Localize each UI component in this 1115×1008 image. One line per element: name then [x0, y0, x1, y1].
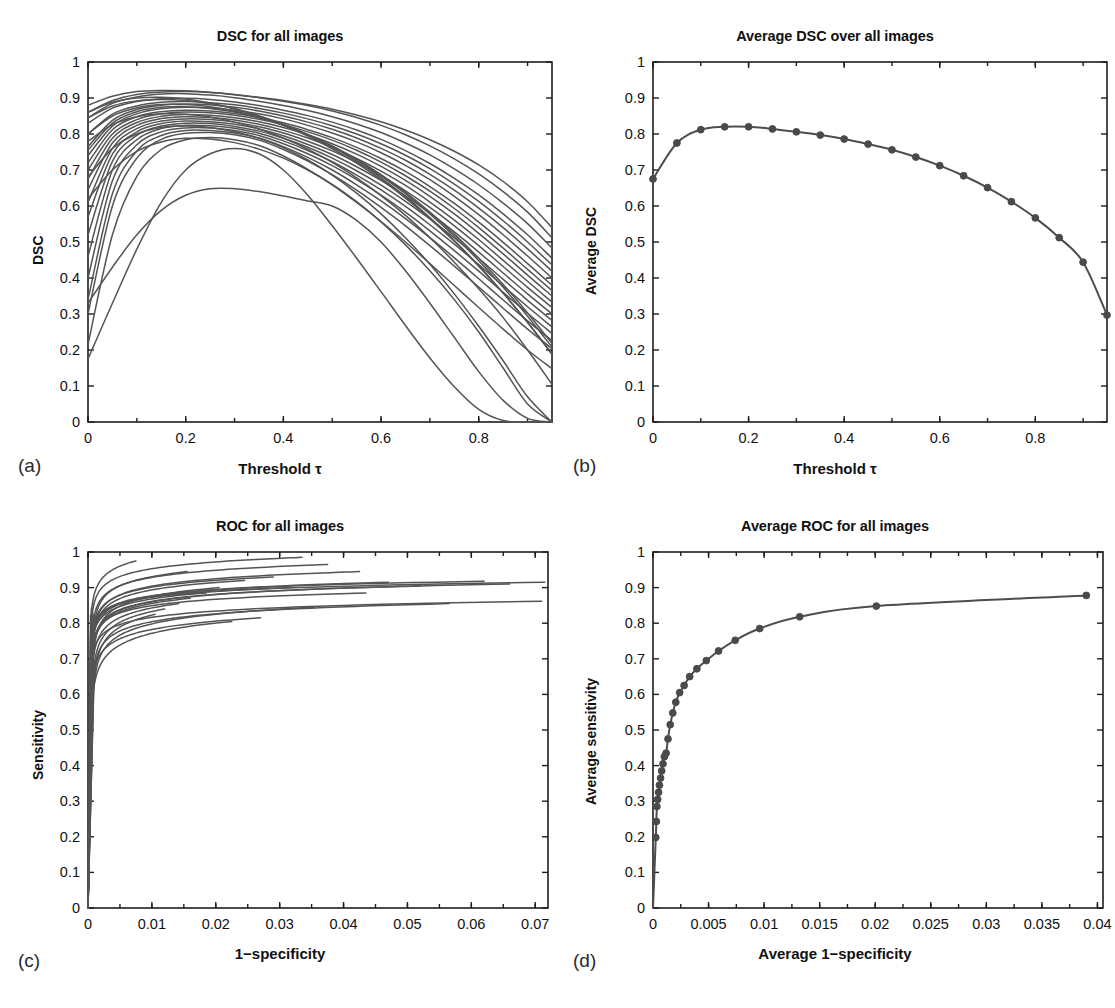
data-point-marker [841, 136, 848, 143]
y-tick-label: 0.3 [38, 793, 80, 809]
data-point-marker [669, 710, 676, 717]
roc-curves [88, 557, 545, 908]
data-point-marker [756, 625, 763, 632]
data-point-marker [732, 637, 739, 644]
y-tick-label: 0.7 [603, 651, 645, 667]
panel-c-title: ROC for all images [0, 518, 560, 534]
y-tick-label: 0 [603, 414, 645, 430]
dsc-curve [88, 138, 552, 422]
panel-b: Average DSC over all images Average DSC … [555, 0, 1115, 500]
y-tick-label: 0.6 [38, 686, 80, 702]
data-point-marker [655, 789, 662, 796]
y-tick-label: 0.5 [38, 234, 80, 250]
x-tick-label: 0.6 [371, 430, 391, 446]
x-tick-label: 0.07 [521, 916, 549, 932]
data-point-marker [960, 172, 967, 179]
y-tick-label: 0.1 [603, 864, 645, 880]
data-point-marker [1083, 592, 1090, 599]
y-tick-label: 0.5 [603, 234, 645, 250]
y-tick-label: 1 [38, 544, 80, 560]
data-point-marker [721, 123, 728, 130]
y-tick-label: 0.8 [603, 126, 645, 142]
x-tick-label: 0 [84, 430, 92, 446]
x-tick-label: 0.4 [273, 430, 293, 446]
y-tick-label: 0.8 [38, 126, 80, 142]
avg-dsc-curve-group [650, 123, 1111, 318]
dsc-curve [88, 130, 552, 341]
y-tick-label: 0 [603, 900, 645, 916]
y-tick-label: 0.4 [603, 270, 645, 286]
data-point-marker [656, 782, 663, 789]
x-tick-label: 0.05 [393, 916, 421, 932]
data-point-marker [703, 657, 710, 664]
data-point-marker [657, 775, 664, 782]
data-point-marker [817, 132, 824, 139]
y-tick-label: 0.3 [38, 306, 80, 322]
data-point-marker [715, 648, 722, 655]
y-tick-label: 0.7 [38, 651, 80, 667]
y-tick-label: 0 [38, 900, 80, 916]
panel-b-xlabel: Threshold τ [555, 460, 1115, 477]
y-tick-label: 0.6 [603, 198, 645, 214]
data-point-marker [667, 721, 674, 728]
dsc-curve [88, 132, 552, 348]
y-tick-label: 0.2 [38, 342, 80, 358]
panel-b-title: Average DSC over all images [555, 28, 1115, 44]
panel-a-xlabel: Threshold τ [0, 460, 560, 477]
roc-curve [88, 601, 542, 908]
roc-curve [88, 618, 261, 908]
data-point-marker [665, 736, 672, 743]
data-point-marker [676, 689, 683, 696]
x-tick-label: 0.04 [1083, 916, 1111, 932]
data-point-marker [793, 128, 800, 135]
dsc-curves [88, 90, 552, 422]
y-tick-label: 0.8 [38, 615, 80, 631]
panel-b-ylabel: Average DSC [583, 207, 599, 295]
data-point-marker [1080, 259, 1087, 266]
y-tick-label: 0.9 [38, 580, 80, 596]
y-tick-label: 0.9 [603, 90, 645, 106]
data-point-marker [745, 123, 752, 130]
figure-root: DSC for all images DSC Threshold τ (a) 0… [0, 0, 1115, 1008]
x-tick-label: 0.2 [738, 430, 758, 446]
data-point-marker [873, 603, 880, 610]
y-tick-label: 0.2 [38, 829, 80, 845]
data-point-marker [672, 699, 679, 706]
y-tick-label: 0.2 [603, 829, 645, 845]
data-point-marker [1032, 214, 1039, 221]
panel-d-title: Average ROC for all images [555, 518, 1115, 534]
data-point-marker [653, 803, 660, 810]
data-point-marker [1056, 234, 1063, 241]
y-tick-label: 0.1 [38, 378, 80, 394]
data-point-marker [650, 176, 657, 183]
panel-d-xlabel: Average 1−specificity [555, 945, 1115, 962]
data-point-marker [697, 126, 704, 133]
data-point-marker [984, 184, 991, 191]
panel-c: ROC for all images Sensitivity 1−specifi… [0, 490, 560, 1008]
data-point-marker [1104, 312, 1111, 319]
panel-a-letter: (a) [18, 455, 41, 477]
x-tick-label: 0.03 [972, 916, 1000, 932]
x-tick-label: 0.2 [176, 430, 196, 446]
y-tick-label: 0.4 [38, 758, 80, 774]
avg-roc-curve [653, 595, 1086, 908]
x-tick-label: 0.6 [930, 430, 950, 446]
roc-curve [88, 586, 420, 908]
x-tick-label: 0.03 [266, 916, 294, 932]
roc-curve [88, 621, 232, 908]
x-tick-label: 0 [649, 430, 657, 446]
y-tick-label: 0.8 [603, 615, 645, 631]
panel-d: Average ROC for all images Average sensi… [555, 490, 1115, 1008]
y-tick-label: 1 [603, 544, 645, 560]
data-point-marker [936, 162, 943, 169]
x-tick-label: 0.035 [1024, 916, 1060, 932]
y-tick-label: 1 [38, 54, 80, 70]
dsc-curve [88, 138, 552, 369]
x-tick-label: 0.04 [329, 916, 357, 932]
data-point-marker [652, 834, 659, 841]
y-tick-label: 0.2 [603, 342, 645, 358]
roc-curve [88, 582, 388, 908]
panel-c-xlabel: 1−specificity [0, 945, 560, 962]
data-point-marker [769, 126, 776, 133]
data-point-marker [686, 673, 693, 680]
